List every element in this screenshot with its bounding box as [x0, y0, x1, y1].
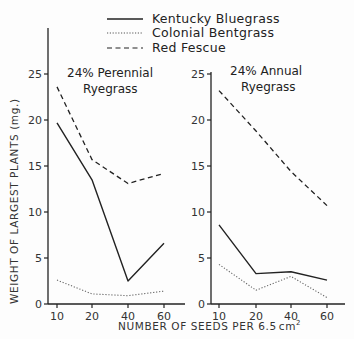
legend-label-colonial: Colonial Bentgrass [152, 25, 274, 40]
y-tick-label: 25 [28, 68, 42, 81]
legend: Kentucky Bluegrass Colonial Bentgrass Re… [107, 11, 280, 55]
x-tick-label: 20 [85, 310, 99, 323]
panel-title-right-line2: Ryegrass [241, 80, 296, 94]
x-tick-label: 10 [50, 310, 64, 323]
series-line-kentucky-bluegrass [57, 123, 164, 281]
chart-canvas: Kentucky Bluegrass Colonial Bentgrass Re… [0, 0, 354, 339]
y-tick-label: 0 [35, 298, 42, 311]
series-right [219, 91, 327, 298]
series-line-red-fescue [219, 91, 327, 206]
x-tick-label: 40 [284, 310, 298, 323]
y-tick-label: 15 [28, 160, 42, 173]
panel-right: 0510152025 10204060 24% Annual Ryegrass [191, 64, 345, 323]
x-tick-label: 20 [249, 310, 263, 323]
y-tick-label: 20 [28, 114, 42, 127]
x-tick-label: 60 [320, 310, 334, 323]
x-tick-label: 40 [121, 310, 135, 323]
series-line-red-fescue [57, 87, 164, 184]
y-tick-label: 5 [198, 252, 205, 265]
y-tick-label: 20 [191, 114, 205, 127]
y-tick-label: 25 [191, 68, 205, 81]
panel-left: 0510152025 10204060 24% Perennial Ryegra… [28, 28, 185, 323]
y-tick-label: 5 [35, 252, 42, 265]
panel-title-left-line2: Ryegrass [83, 82, 138, 96]
panel-title-left-line1: 24% Perennial [67, 66, 153, 80]
y-tick-label: 0 [198, 298, 205, 311]
legend-label-redfescue: Red Fescue [152, 40, 226, 55]
series-left [57, 87, 164, 296]
y-tick-label: 10 [28, 206, 42, 219]
panel-title-right-line1: 24% Annual [230, 64, 302, 78]
series-line-colonial-bentgrass [219, 264, 327, 297]
x-axis-label: NUMBER OF SEEDS PER 6.5cm2 [118, 319, 301, 332]
x-tick-label: 60 [157, 310, 171, 323]
y-tick-label: 10 [191, 206, 205, 219]
series-line-colonial-bentgrass [57, 280, 164, 296]
y-tick-label: 15 [191, 160, 205, 173]
y-ticks-left: 0510152025 [28, 68, 48, 311]
legend-label-kentucky: Kentucky Bluegrass [152, 11, 280, 26]
series-line-kentucky-bluegrass [219, 225, 327, 280]
y-ticks-right: 0510152025 [191, 68, 211, 311]
x-tick-label: 10 [212, 310, 226, 323]
y-axis-label: WEIGHT OF LARGEST PLANTS (mg.) [8, 98, 20, 304]
